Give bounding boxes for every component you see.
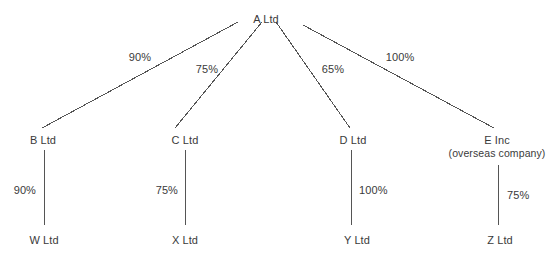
edge-line-a-b <box>42 22 238 128</box>
edge-percentage-a-d: 65% <box>322 63 344 75</box>
node-label-z: Z Ltd <box>487 234 513 247</box>
edge-lines <box>42 22 498 225</box>
node-name-e: E Inc <box>484 134 510 146</box>
edge-percentage-c-x: 75% <box>156 184 178 196</box>
edge-percentage-a-b: 90% <box>129 51 151 63</box>
node-label-a: A Ltd <box>253 13 279 26</box>
node-name-a: A Ltd <box>253 13 279 25</box>
edge-percentage-d-y: 100% <box>359 184 388 196</box>
edge-percentage-a-e: 100% <box>386 51 415 63</box>
node-label-e: E Inc(overseas company) <box>449 134 546 160</box>
node-label-d: D Ltd <box>340 134 367 147</box>
node-label-b: B Ltd <box>30 134 56 147</box>
node-label-x: X Ltd <box>172 234 198 247</box>
edge-line-a-d <box>276 22 350 128</box>
edge-line-a-e <box>303 25 494 128</box>
node-name-d: D Ltd <box>340 134 367 146</box>
node-label-w: W Ltd <box>29 234 58 247</box>
edge-percentage-a-c: 75% <box>196 63 218 75</box>
node-label-c: C Ltd <box>172 134 199 147</box>
node-label-y: Y Ltd <box>344 234 370 247</box>
node-name-c: C Ltd <box>172 134 199 146</box>
ownership-structure-diagram: A LtdB LtdC LtdD LtdE Inc(overseas compa… <box>0 0 553 255</box>
diagram-edges-layer <box>0 0 553 255</box>
edge-percentage-e-z: 75% <box>507 189 529 201</box>
edge-line-a-c <box>175 22 262 128</box>
edge-percentage-b-w: 90% <box>14 184 36 196</box>
node-name-x: X Ltd <box>172 234 198 246</box>
node-name-y: Y Ltd <box>344 234 370 246</box>
node-name-z: Z Ltd <box>487 234 513 246</box>
node-name-w: W Ltd <box>29 234 58 246</box>
node-name-b: B Ltd <box>30 134 56 146</box>
node-subtitle-e: (overseas company) <box>449 147 546 160</box>
